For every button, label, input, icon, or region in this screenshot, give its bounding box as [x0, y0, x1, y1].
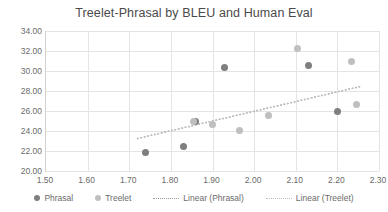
x-tick-label: 2.10: [278, 176, 312, 185]
legend-item[interactable]: Linear (Treelet): [266, 193, 354, 203]
legend-item[interactable]: Phrasal: [34, 193, 73, 203]
legend-item-label: Treelet: [105, 193, 131, 203]
chart-container: Treelet-Phrasal by BLEU and Human Eval 2…: [0, 0, 388, 212]
x-tick-label: 1.50: [28, 176, 62, 185]
legend-item-label: Linear (Treelet): [296, 193, 354, 203]
chart-legend: PhrasalTreeletLinear (Phrasal)Linear (Tr…: [0, 190, 388, 206]
x-tick-label: 2.20: [319, 176, 353, 185]
x-tick-label: 1.70: [111, 176, 145, 185]
legend-item[interactable]: Treelet: [95, 193, 131, 203]
x-tick-label: 2.30: [361, 176, 388, 185]
x-tick-label: 1.80: [153, 176, 187, 185]
legend-line-icon: [153, 198, 179, 199]
x-tick-label: 1.60: [70, 176, 104, 185]
x-tick-label: 2.00: [236, 176, 270, 185]
legend-item-label: Phrasal: [44, 193, 73, 203]
legend-line-icon: [266, 198, 292, 199]
x-axis-tick-labels: 1.501.601.701.801.902.002.102.202.30: [0, 0, 388, 212]
legend-marker-icon: [34, 195, 40, 201]
legend-item-label: Linear (Phrasal): [183, 193, 243, 203]
x-tick-label: 1.90: [195, 176, 229, 185]
legend-marker-icon: [95, 195, 101, 201]
legend-item[interactable]: Linear (Phrasal): [153, 193, 243, 203]
